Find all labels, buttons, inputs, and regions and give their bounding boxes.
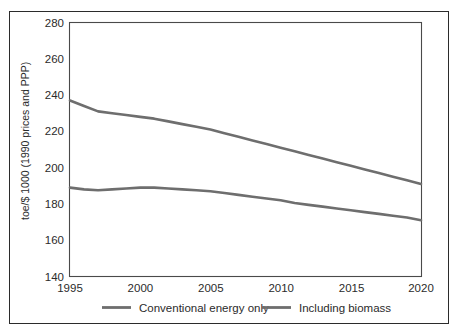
y-tick-label: 260 [45,53,64,65]
plot-area-border [70,23,422,277]
y-tick-label: 200 [45,162,64,174]
chart-figure: 280 260 240 220 200 180 160 140 toe/$ 10… [0,0,458,333]
y-tick-label: 140 [45,271,64,283]
x-tick-label: 2005 [198,282,224,294]
y-tick-label: 240 [45,89,64,101]
y-tick-label: 160 [45,234,64,246]
x-tick-label: 2000 [128,282,154,294]
y-tick-label: 280 [45,17,64,29]
legend-label-conventional-energy-only: Conventional energy only [139,302,269,314]
chart-legend: Conventional energy only Including bioma… [102,302,391,314]
x-tick-label: 2020 [408,282,434,294]
series-line-including-biomass [70,101,421,184]
x-tick-label: 2010 [268,282,294,294]
x-tick-label: 1995 [57,282,83,294]
x-tick-label: 2015 [339,282,365,294]
y-tick-label: 180 [45,198,64,210]
series-line-conventional-energy-only [70,188,421,221]
line-chart: 280 260 240 220 200 180 160 140 toe/$ 10… [0,0,458,333]
y-axis-title: toe/$ 1000 (1990 prices and PPP) [19,62,31,220]
y-axis-ticks: 280 260 240 220 200 180 160 140 [45,17,64,283]
y-tick-label: 220 [45,125,64,137]
x-axis-ticks: 1995 2000 2005 2010 2015 2020 [57,282,434,294]
legend-label-including-biomass: Including biomass [299,302,391,314]
